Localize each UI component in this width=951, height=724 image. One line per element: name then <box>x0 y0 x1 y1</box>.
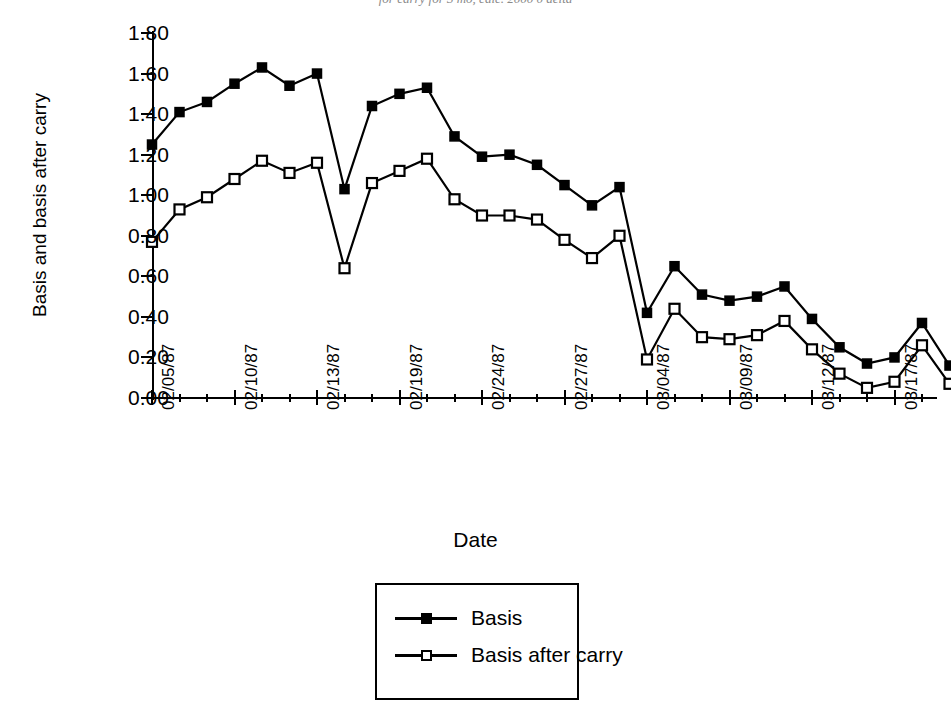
x-tick <box>784 394 786 402</box>
x-tick <box>316 390 318 405</box>
data-point-basis <box>285 81 294 90</box>
legend-sample-open-square-icon <box>395 648 457 662</box>
data-point-basis <box>505 150 514 159</box>
x-tick <box>536 394 538 402</box>
data-point-basis <box>175 108 184 117</box>
data-point-basis-after-carry <box>257 156 267 166</box>
x-tick-label: 02/13/87 <box>324 344 344 410</box>
x-tick <box>151 390 153 405</box>
x-tick <box>674 394 676 402</box>
data-point-basis-after-carry <box>230 174 240 184</box>
legend-sample-filled-square-icon <box>395 611 457 625</box>
x-tick <box>756 394 758 402</box>
x-tick <box>509 394 511 402</box>
data-point-basis <box>478 152 487 161</box>
x-tick <box>234 390 236 405</box>
data-point-basis-after-carry <box>697 332 707 342</box>
figure-canvas: for carry for 3 mo, calc. 2000 0 delta B… <box>0 0 951 724</box>
x-tick-label: 02/10/87 <box>242 344 262 410</box>
data-point-basis <box>945 361 951 370</box>
x-tick-label: 02/05/87 <box>159 344 179 410</box>
data-point-basis-after-carry <box>780 316 790 326</box>
data-point-basis <box>533 160 542 169</box>
legend-label-basis-after-carry: Basis after carry <box>471 643 623 667</box>
data-point-basis-after-carry <box>477 211 487 221</box>
x-tick <box>646 390 648 405</box>
data-point-basis <box>725 296 734 305</box>
data-point-basis-after-carry <box>175 204 185 214</box>
x-tick <box>179 394 181 402</box>
data-point-basis-after-carry <box>945 379 951 389</box>
x-tick <box>839 394 841 402</box>
data-point-basis <box>560 181 569 190</box>
data-point-basis <box>423 83 432 92</box>
data-point-basis <box>698 290 707 299</box>
data-point-basis <box>588 201 597 210</box>
x-tick-label: 02/19/87 <box>407 344 427 410</box>
data-point-basis-after-carry <box>560 235 570 245</box>
data-point-basis <box>258 63 267 72</box>
data-point-basis-after-carry <box>890 377 900 387</box>
data-point-basis <box>203 97 212 106</box>
data-point-basis-after-carry <box>505 211 515 221</box>
legend-item-basis-after-carry: Basis after carry <box>395 642 623 668</box>
data-point-basis-after-carry <box>395 166 405 176</box>
data-point-basis-after-carry <box>532 215 542 225</box>
data-point-basis <box>643 308 652 317</box>
data-point-basis-after-carry <box>450 194 460 204</box>
x-tick-label: 03/04/87 <box>654 344 674 410</box>
data-point-basis <box>230 79 239 88</box>
data-point-basis-after-carry <box>285 168 295 178</box>
data-point-basis <box>340 185 349 194</box>
data-point-basis <box>313 69 322 78</box>
x-tick <box>894 390 896 405</box>
x-tick <box>564 390 566 405</box>
data-point-basis-after-carry <box>752 330 762 340</box>
x-tick <box>289 394 291 402</box>
data-point-basis <box>368 102 377 111</box>
x-tick <box>371 394 373 402</box>
x-tick <box>481 390 483 405</box>
data-point-basis-after-carry <box>422 154 432 164</box>
data-point-basis <box>395 89 404 98</box>
x-tick <box>399 390 401 405</box>
plot-area <box>152 33 935 398</box>
data-point-basis-after-carry <box>862 383 872 393</box>
data-point-basis-after-carry <box>642 354 652 364</box>
x-tick-label: 03/12/87 <box>819 344 839 410</box>
legend-item-basis: Basis <box>395 605 522 631</box>
x-tick <box>729 390 731 405</box>
data-point-basis <box>808 314 817 323</box>
data-point-basis-after-carry <box>312 158 322 168</box>
data-point-basis <box>670 262 679 271</box>
legend-label-basis: Basis <box>471 606 522 630</box>
x-tick <box>921 394 923 402</box>
data-point-basis-after-carry <box>340 263 350 273</box>
x-tick-label: 03/09/87 <box>737 344 757 410</box>
series-line-basis <box>152 67 950 365</box>
data-point-basis-after-carry <box>807 344 817 354</box>
data-point-basis <box>780 282 789 291</box>
data-point-basis-after-carry <box>202 192 212 202</box>
x-tick <box>344 394 346 402</box>
legend: Basis Basis after carry <box>375 583 579 700</box>
x-tick <box>261 394 263 402</box>
data-point-basis-after-carry <box>367 178 377 188</box>
data-point-basis <box>450 132 459 141</box>
x-tick <box>811 390 813 405</box>
data-point-basis-after-carry <box>725 334 735 344</box>
data-point-basis <box>890 353 899 362</box>
x-tick <box>206 394 208 402</box>
data-point-basis <box>918 318 927 327</box>
data-point-basis-after-carry <box>587 253 597 263</box>
data-point-basis <box>863 359 872 368</box>
x-tick <box>866 394 868 402</box>
data-point-basis <box>753 292 762 301</box>
x-tick-label: 02/27/87 <box>572 344 592 410</box>
x-tick-label: 03/17/87 <box>902 344 922 410</box>
x-tick-label: 02/24/87 <box>489 344 509 410</box>
x-tick <box>701 394 703 402</box>
data-point-basis <box>615 183 624 192</box>
data-point-basis-after-carry <box>615 231 625 241</box>
x-axis-title: Date <box>0 528 951 552</box>
